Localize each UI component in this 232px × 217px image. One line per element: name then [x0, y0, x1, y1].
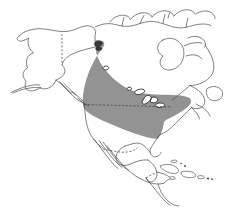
nicaragua-coast — [164, 179, 171, 183]
bahamas-island — [171, 160, 177, 163]
panama-coast — [158, 184, 179, 206]
lesser-antilles-islet-1 — [207, 177, 209, 179]
hudson-bay-coastline — [158, 38, 184, 70]
hudson-strait — [184, 43, 202, 46]
alaska-landmass — [11, 26, 96, 106]
arctic-strait-5 — [168, 13, 170, 19]
lake-erie-ontario — [156, 103, 165, 108]
range-map-figure: North America distribution map — [0, 0, 232, 217]
arctic-island-5 — [196, 11, 215, 19]
gulf-of-st-lawrence — [190, 86, 205, 109]
arctic-strait-3 — [163, 15, 165, 24]
caribbean-islands — [160, 160, 213, 180]
canada-arctic-coast — [95, 21, 211, 27]
arctic-strait-1 — [122, 18, 124, 27]
newfoundland-island — [206, 86, 222, 100]
honduras-coast — [157, 172, 172, 179]
lesser-antilles-islet-2 — [211, 178, 213, 180]
arctic-island-4 — [174, 10, 195, 16]
isthmus-coast — [146, 178, 170, 205]
mexico-guatemala-border — [146, 174, 155, 179]
central-america-pacific — [140, 179, 164, 185]
baja-peninsula-west — [94, 139, 118, 169]
lake-winnipeg — [103, 66, 109, 70]
hispaniola-island — [181, 171, 196, 177]
arctic-island-1 — [110, 15, 130, 22]
florida-gulf-coast — [125, 143, 151, 153]
arctic-strait-4 — [186, 18, 188, 27]
arctic-island-2 — [131, 13, 152, 19]
panhandle-islands-1 — [60, 82, 72, 94]
baffin-island-south — [188, 36, 206, 47]
alaska-coastline — [17, 26, 95, 91]
bahamas-islet-2 — [184, 165, 186, 167]
jamaica-island — [170, 177, 176, 180]
bahamas-islet-1 — [180, 163, 182, 165]
puerto-rico-island — [198, 176, 205, 179]
labrador-coast — [190, 45, 214, 86]
north-america-map-svg: North America distribution map — [0, 0, 232, 217]
arctic-island-3 — [152, 11, 174, 17]
yucatan-peninsula — [146, 160, 157, 182]
cuba-island — [160, 164, 179, 173]
ungava-bay — [186, 55, 202, 59]
lake-of-the-woods — [127, 87, 132, 90]
